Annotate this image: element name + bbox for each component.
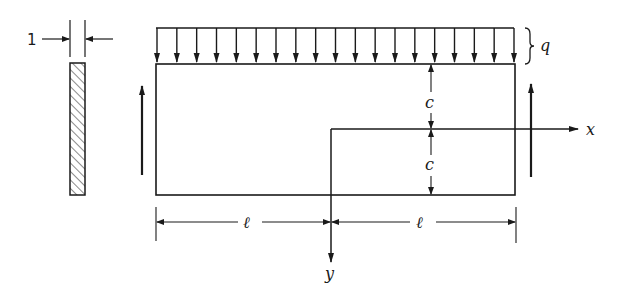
distributed-load: q: [156, 28, 550, 64]
c-upper-label: c: [425, 93, 434, 112]
beam-diagram: 1 q x y c c ℓ ℓ: [0, 0, 623, 302]
load-arrows: [157, 28, 514, 62]
c-lower-label: c: [425, 155, 434, 174]
hatched-section: [70, 63, 85, 195]
l-left-label: ℓ: [243, 213, 250, 232]
x-axis-label: x: [586, 120, 595, 139]
span-dimension: ℓ ℓ: [156, 207, 516, 243]
load-brace: [525, 28, 534, 64]
cross-section: 1: [27, 20, 113, 195]
l-right-label: ℓ: [416, 213, 423, 232]
load-label: q: [540, 36, 550, 55]
thickness-label: 1: [27, 31, 37, 49]
y-axis-label: y: [324, 264, 335, 283]
coordinate-axes: x y: [324, 120, 595, 283]
